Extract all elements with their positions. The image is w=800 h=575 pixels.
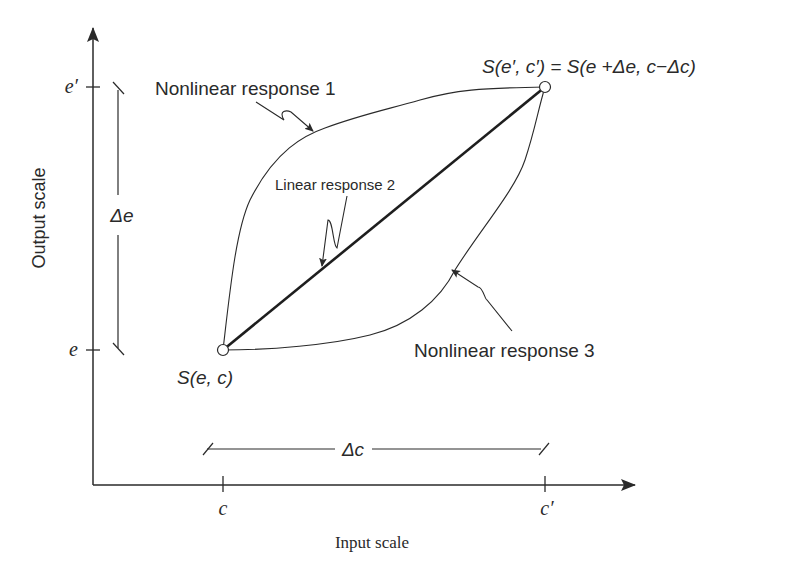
leader-arrow-3-icon — [452, 270, 512, 331]
linear-response-2-label: Linear response 2 — [275, 176, 395, 193]
delta-e-dimension: Δe — [109, 82, 133, 355]
nonlinear-response-3-label: Nonlinear response 3 — [414, 340, 595, 361]
x-axis-label: Input scale — [335, 533, 409, 552]
x-axis: c c′ Input scale — [93, 476, 635, 552]
y-axis-label: Output scale — [29, 167, 49, 268]
end-point-label: S(e′, c′) = S(e +Δe, c−Δc) — [482, 56, 696, 77]
y-tick-label-e-prime: e′ — [65, 75, 79, 97]
delta-c-dimension: Δc — [203, 439, 549, 460]
x-tick-label-c: c — [219, 497, 228, 519]
nonlinear-response-1-label: Nonlinear response 1 — [155, 78, 336, 99]
leader-arrow-2-icon — [322, 196, 347, 266]
start-point-marker-icon — [218, 345, 229, 356]
start-point-label: S(e, c) — [177, 367, 233, 388]
y-tick-label-e: e — [69, 338, 78, 360]
y-axis: e′ e Output scale — [29, 28, 100, 485]
delta-e-label: Δe — [109, 205, 133, 226]
delta-c-label: Δc — [341, 439, 365, 460]
linear-response-2-line — [223, 87, 545, 350]
leader-arrow-1-icon — [256, 102, 313, 131]
end-point-marker-icon — [540, 82, 551, 93]
response-diagram: e′ e Output scale c c′ Input scale Δe — [0, 0, 800, 575]
x-tick-label-c-prime: c′ — [540, 497, 554, 519]
